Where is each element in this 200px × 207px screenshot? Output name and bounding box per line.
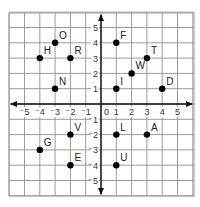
- point-n: [52, 86, 58, 92]
- point-f: [113, 40, 119, 46]
- y-tick-label: 5: [93, 23, 98, 33]
- point-u: [113, 162, 119, 168]
- point-i: [113, 86, 119, 92]
- plotted-points: OHRNFTWIDVGELAU: [37, 30, 174, 169]
- y-axis-arrow-up-icon: [98, 14, 104, 21]
- x-tick-label: 4: [160, 107, 165, 117]
- y-tick-label: 2: [93, 69, 98, 79]
- x-tick-label: 2: [129, 107, 134, 117]
- y-tick-label: ⁻2: [88, 130, 98, 140]
- x-tick-label: ⁻2: [65, 107, 75, 117]
- x-tick-label: 3: [144, 107, 149, 117]
- point-o: [52, 40, 58, 46]
- axes: [10, 14, 193, 195]
- y-tick-label: ⁻3: [88, 145, 98, 155]
- x-tick-label: ⁻3: [50, 107, 60, 117]
- y-tick-label: ⁻5: [88, 176, 98, 186]
- point-label-g: G: [44, 137, 52, 148]
- y-tick-label: ⁻1: [88, 115, 98, 125]
- point-g: [37, 147, 43, 153]
- point-label-f: F: [120, 30, 126, 41]
- point-label-o: O: [59, 30, 67, 41]
- point-label-n: N: [59, 76, 66, 87]
- x-axis-arrow-right-icon: [186, 101, 193, 107]
- point-label-i: I: [120, 76, 123, 87]
- point-label-v: V: [74, 122, 81, 133]
- y-tick-label: 3: [93, 54, 98, 64]
- y-tick-label: 4: [93, 38, 98, 48]
- coordinate-plane: ⁻5⁻4⁻3⁻2⁻11234554321⁻1⁻2⁻3⁻4⁻50 OHRNFTWI…: [0, 0, 200, 207]
- x-tick-label: ⁻4: [35, 107, 45, 117]
- point-label-u: U: [120, 152, 127, 163]
- origin-label: 0: [104, 107, 109, 117]
- point-label-e: E: [74, 152, 81, 163]
- point-label-t: T: [151, 45, 157, 56]
- point-l: [113, 131, 119, 137]
- point-label-d: D: [166, 76, 173, 87]
- x-axis-arrow-left-icon: [10, 101, 17, 107]
- x-tick-label: 5: [175, 107, 180, 117]
- point-w: [128, 70, 134, 76]
- point-label-r: R: [74, 45, 81, 56]
- point-v: [67, 131, 73, 137]
- point-d: [159, 86, 165, 92]
- point-e: [67, 162, 73, 168]
- point-label-a: A: [151, 122, 158, 133]
- point-r: [67, 55, 73, 61]
- point-a: [144, 131, 150, 137]
- y-tick-label: ⁻4: [88, 161, 98, 171]
- x-tick-label: ⁻5: [19, 107, 29, 117]
- y-tick-label: 1: [93, 84, 98, 94]
- point-h: [37, 55, 43, 61]
- y-axis-arrow-down-icon: [98, 188, 104, 195]
- point-label-w: W: [136, 60, 146, 71]
- point-label-h: H: [44, 45, 51, 56]
- x-tick-label: 1: [114, 107, 119, 117]
- point-label-l: L: [120, 122, 126, 133]
